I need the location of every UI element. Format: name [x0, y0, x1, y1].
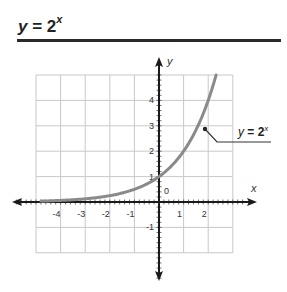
y-tick-label: 2: [149, 146, 154, 156]
y-axis-label: y: [166, 55, 174, 67]
y-tick-label: 4: [149, 95, 154, 105]
x-axis-label: x: [250, 182, 257, 194]
exponential-curve: [41, 75, 216, 201]
x-tick-label: -2: [102, 209, 110, 219]
origin-label: 0: [164, 186, 169, 196]
y-tick-label: 3: [149, 121, 154, 131]
x-tick-label: -3: [77, 209, 85, 219]
x-tick-label: 1: [177, 209, 182, 219]
x-tick-label: -4: [53, 209, 61, 219]
curve-label: y = 2x: [237, 124, 269, 139]
x-tick-label: -1: [126, 209, 134, 219]
y-tick-label: -1: [146, 222, 154, 232]
exponential-chart: -4-3-2-112-112340xyy = 2x: [0, 0, 287, 292]
x-tick-label: 2: [202, 209, 207, 219]
